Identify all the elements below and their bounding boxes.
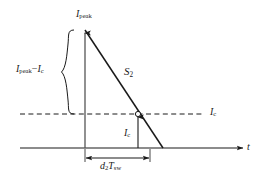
label-time-axis: t [247,142,250,152]
figure-canvas [0,0,261,182]
label-duty-time: d2Tsw [100,161,121,172]
label-peak-minus-critical: Ipeak−Ic [16,64,44,75]
label-peak-current: Ipeak [76,9,92,20]
intersection-marker [135,111,140,116]
figure-container: Ipeak Ipeak−Ic S2 Ic Ic d2Tsw t [0,0,261,182]
peak-minus-critical-brace [62,30,75,114]
label-critical-current-mid: Ic [124,128,130,139]
label-critical-current-right: Ic [210,107,216,118]
label-s2-slope: S2 [124,66,133,79]
